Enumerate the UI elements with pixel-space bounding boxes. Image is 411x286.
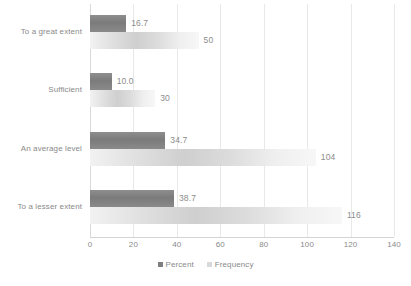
x-tick-label: 120 bbox=[344, 240, 358, 249]
legend-swatch-icon bbox=[207, 262, 212, 267]
bar-label-percent: 34.7 bbox=[170, 132, 187, 149]
bar-label-percent: 10.0 bbox=[117, 73, 134, 90]
bar-frequency[interactable] bbox=[90, 32, 199, 49]
plot-area: 16.75010.03034.710438.7116 bbox=[90, 4, 394, 237]
legend-item-frequency[interactable]: Frequency bbox=[207, 260, 254, 269]
bar-frequency[interactable] bbox=[90, 90, 155, 107]
x-tick-label: 100 bbox=[300, 240, 314, 249]
bar-percent[interactable] bbox=[90, 132, 165, 149]
bar-group: 10.030 bbox=[90, 62, 394, 120]
bar-chart: 16.75010.03034.710438.7116 To a great ex… bbox=[0, 0, 411, 286]
category-label: To a great extent bbox=[0, 27, 82, 36]
bar-label-frequency: 116 bbox=[347, 207, 361, 224]
x-tick-label: 0 bbox=[88, 240, 93, 249]
legend-label: Percent bbox=[166, 260, 194, 269]
bar-percent[interactable] bbox=[90, 190, 174, 207]
legend-label: Frequency bbox=[215, 260, 254, 269]
bar-label-percent: 16.7 bbox=[131, 15, 148, 32]
x-axis-line bbox=[90, 237, 394, 238]
bar-frequency[interactable] bbox=[90, 207, 342, 224]
x-tick-label: 140 bbox=[387, 240, 401, 249]
x-tick-label: 60 bbox=[216, 240, 225, 249]
category-label: Sufficient bbox=[0, 85, 82, 94]
category-label: An average level bbox=[0, 144, 82, 153]
x-tick-label: 20 bbox=[129, 240, 138, 249]
legend-swatch-icon bbox=[158, 262, 163, 267]
x-tick-label: 40 bbox=[172, 240, 181, 249]
x-tick-label: 80 bbox=[259, 240, 268, 249]
legend-item-percent[interactable]: Percent bbox=[158, 260, 194, 269]
gridline-140 bbox=[394, 4, 395, 237]
bar-label-frequency: 30 bbox=[160, 90, 170, 107]
bar-label-frequency: 50 bbox=[204, 32, 214, 49]
bar-label-frequency: 104 bbox=[321, 149, 335, 166]
bar-group: 16.750 bbox=[90, 4, 394, 62]
chart-legend: PercentFrequency bbox=[0, 260, 411, 269]
bar-group: 34.7104 bbox=[90, 121, 394, 179]
bar-group: 38.7116 bbox=[90, 179, 394, 237]
bar-percent[interactable] bbox=[90, 15, 126, 32]
bar-frequency[interactable] bbox=[90, 149, 316, 166]
bar-label-percent: 38.7 bbox=[179, 190, 196, 207]
category-label: To a lesser extent bbox=[0, 202, 82, 211]
bar-percent[interactable] bbox=[90, 73, 112, 90]
category-axis-labels: To a great extentSufficientAn average le… bbox=[0, 4, 86, 237]
x-axis-tick-labels: 020406080100120140 bbox=[90, 240, 394, 254]
